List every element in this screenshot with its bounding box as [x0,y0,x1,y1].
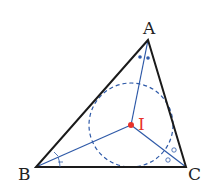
bisector-B [36,125,131,167]
angle-mark-A-dot-1 [138,55,142,59]
vertex-label-B: B [18,164,31,184]
incenter-diagram: A B C I [0,0,212,188]
angle-mark-B-tick-1 [54,152,58,156]
incenter-label-I: I [138,114,145,134]
angle-mark-C-circle-1 [172,148,176,152]
angle-mark-A-dot-2 [146,56,150,60]
angle-mark-C-circle-2 [166,158,170,162]
triangle-ABC [36,40,186,167]
bisector-A [131,40,148,125]
vertex-label-C: C [188,164,201,184]
incenter-point [128,122,134,128]
vertex-label-A: A [142,18,156,38]
